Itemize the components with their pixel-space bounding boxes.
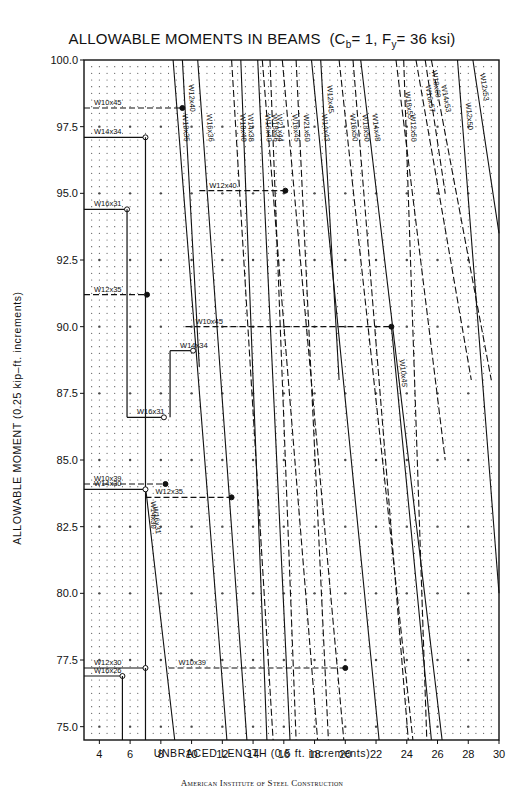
- grid-dot: [145, 86, 146, 87]
- grid-dot: [214, 419, 215, 420]
- grid-dot: [260, 193, 261, 194]
- grid-dot: [491, 479, 492, 480]
- grid-dot: [107, 559, 108, 560]
- grid-dot: [299, 353, 300, 354]
- grid-dot: [183, 233, 184, 234]
- grid-dot: [491, 633, 492, 634]
- grid-dot: [314, 653, 315, 654]
- grid-dot: [391, 139, 392, 140]
- grid-dot: [91, 319, 92, 320]
- grid-dot: [399, 199, 400, 200]
- grid-dot: [168, 633, 169, 634]
- grid-dot: [375, 93, 376, 94]
- grid-dot: [237, 553, 238, 554]
- grid-dot: [229, 339, 230, 340]
- grid-dot: [322, 246, 323, 247]
- grid-dot: [399, 206, 400, 207]
- grid-dot: [314, 573, 315, 574]
- grid-dot: [299, 186, 300, 187]
- grid-dot: [468, 79, 469, 80]
- grid-dot: [352, 99, 353, 100]
- grid-dot: [314, 613, 315, 614]
- grid-dot: [329, 673, 330, 674]
- grid-dot: [406, 499, 407, 500]
- grid-dot: [399, 506, 400, 507]
- grid-dot: [260, 426, 261, 427]
- grid-dot: [352, 426, 353, 427]
- grid-dot: [383, 306, 384, 307]
- grid-dot: [253, 713, 254, 714]
- grid-dot: [206, 366, 207, 367]
- grid-dot: [360, 246, 361, 247]
- grid-dot: [414, 546, 415, 547]
- grid-dot: [299, 633, 300, 634]
- grid-dot: [452, 613, 453, 614]
- grid-dot: [206, 433, 207, 434]
- grid-dot: [214, 493, 215, 494]
- grid-dot: [91, 246, 92, 247]
- grid-dot: [130, 253, 131, 254]
- grid-dot: [183, 446, 184, 447]
- grid-dot: [306, 219, 307, 220]
- grid-dot: [391, 199, 392, 200]
- grid-dot: [130, 419, 131, 420]
- grid-dot: [322, 719, 323, 720]
- grid-dot: [437, 539, 438, 540]
- grid-dot: [452, 99, 453, 100]
- grid-dot: [199, 479, 200, 480]
- grid-dot: [107, 566, 108, 567]
- grid-dot: [276, 73, 277, 74]
- grid-dot: [91, 386, 92, 387]
- step-label: W10x39: [179, 658, 207, 667]
- grid-dot: [283, 499, 284, 500]
- grid-dot: [337, 226, 338, 227]
- grid-dot: [414, 153, 415, 154]
- grid-dot: [99, 273, 100, 274]
- grid-dot: [107, 699, 108, 700]
- grid-dot: [214, 379, 215, 380]
- grid-dot: [168, 619, 169, 620]
- grid-dot: [206, 299, 207, 300]
- grid-dot: [191, 113, 192, 114]
- grid-dot: [206, 99, 207, 100]
- grid-dot: [160, 653, 161, 654]
- grid-dot: [475, 339, 476, 340]
- grid-dot: [391, 679, 392, 680]
- grid-dot: [383, 373, 384, 374]
- grid-dot: [176, 406, 177, 407]
- grid-dot: [107, 119, 108, 120]
- grid-dot: [460, 726, 461, 727]
- grid-dot: [99, 73, 100, 74]
- grid-dot: [268, 219, 269, 220]
- grid-dot: [429, 559, 430, 560]
- grid-dot: [253, 273, 254, 274]
- grid-dot: [306, 679, 307, 680]
- grid-dot: [452, 299, 453, 300]
- grid-dot: [268, 159, 269, 160]
- grid-dot: [468, 433, 469, 434]
- grid-dot: [253, 253, 254, 254]
- grid-dot: [352, 553, 353, 554]
- grid-dot: [391, 286, 392, 287]
- grid-dot: [122, 73, 123, 74]
- grid-dot: [283, 219, 284, 220]
- grid-dot: [114, 573, 115, 574]
- grid-dot: [322, 653, 323, 654]
- grid-dot: [375, 266, 376, 267]
- grid-dot: [291, 193, 292, 194]
- grid-dot: [299, 166, 300, 167]
- grid-dot: [452, 526, 453, 527]
- grid-dot: [437, 146, 438, 147]
- grid-dot: [414, 673, 415, 674]
- grid-dot: [391, 159, 392, 160]
- grid-dot: [460, 566, 461, 567]
- grid-dot: [276, 473, 277, 474]
- grid-dot: [245, 219, 246, 220]
- grid-dot: [452, 426, 453, 427]
- grid-dot: [391, 226, 392, 227]
- grid-dot: [268, 226, 269, 227]
- grid-dot: [245, 213, 246, 214]
- grid-dot: [114, 333, 115, 334]
- grid-dot: [153, 693, 154, 694]
- grid-dot: [422, 473, 423, 474]
